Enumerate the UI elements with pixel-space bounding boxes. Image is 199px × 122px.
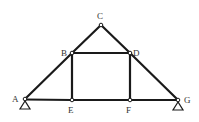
member-a-e xyxy=(25,100,72,101)
joint-f xyxy=(128,98,132,102)
label-a: A xyxy=(12,94,19,104)
joint-a xyxy=(23,97,27,101)
joint-d xyxy=(128,51,132,55)
member-d-g xyxy=(130,53,178,100)
label-b: B xyxy=(61,48,67,58)
member-b-c xyxy=(72,25,101,53)
supports xyxy=(20,101,183,110)
support-a-icon xyxy=(20,101,30,109)
support-g-icon xyxy=(173,102,183,110)
label-d: D xyxy=(133,48,140,58)
label-c: C xyxy=(97,11,103,21)
label-g: G xyxy=(184,95,191,105)
joint-b xyxy=(70,51,74,55)
truss-members xyxy=(25,25,178,100)
joints xyxy=(23,23,180,102)
label-e: E xyxy=(68,105,74,115)
joint-e xyxy=(70,98,74,102)
member-a-b xyxy=(25,53,72,99)
member-c-d xyxy=(101,25,130,53)
joint-g xyxy=(176,98,180,102)
joint-c xyxy=(99,23,103,27)
truss-diagram: A B C D E F G xyxy=(0,0,199,122)
label-f: F xyxy=(126,105,131,115)
